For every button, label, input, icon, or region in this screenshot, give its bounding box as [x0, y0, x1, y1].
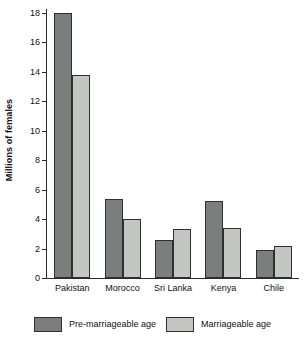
- legend-label: Marriageable age: [201, 319, 271, 329]
- y-axis-tick: [42, 101, 46, 102]
- y-axis-tick: [42, 219, 46, 220]
- legend-item-marriageable[interactable]: Marriageable age: [166, 313, 271, 335]
- x-axis-category-label: Morocco: [105, 283, 140, 293]
- y-axis-tick: [42, 249, 46, 250]
- bar: [105, 199, 123, 279]
- x-axis-line: [46, 278, 299, 279]
- bar: [54, 13, 72, 278]
- y-axis-tick: [42, 42, 46, 43]
- y-axis-tick-label: 8: [35, 156, 40, 165]
- y-axis-tick-label: 2: [35, 244, 40, 253]
- y-axis-tick-label: 4: [35, 215, 40, 224]
- y-axis-title-text: Millions of females: [4, 99, 14, 181]
- y-axis-tick-label: 10: [30, 126, 40, 135]
- legend-swatch-icon: [34, 317, 62, 332]
- bar-chart: Millions of females 024681012141618 Paki…: [0, 0, 305, 345]
- y-axis-tick-label: 6: [35, 185, 40, 194]
- bar: [72, 75, 90, 278]
- x-axis-category-label: Chile: [264, 283, 285, 293]
- y-axis-tick: [42, 72, 46, 73]
- y-axis-tick: [42, 190, 46, 191]
- x-axis-category-label: Pakistan: [55, 283, 90, 293]
- y-axis-tick-label: 12: [30, 97, 40, 106]
- y-axis-line: [46, 9, 47, 278]
- legend-label: Pre-marriageable age: [69, 319, 156, 329]
- y-axis-title: Millions of females: [0, 0, 18, 280]
- bar: [155, 240, 173, 278]
- legend-item-pre-marriageable[interactable]: Pre-marriageable age: [34, 313, 156, 335]
- y-axis-tick: [42, 13, 46, 14]
- x-axis-category-label: Sri Lanka: [154, 283, 192, 293]
- legend-swatch-icon: [166, 317, 194, 332]
- bar: [205, 201, 223, 278]
- y-axis-tick-label: 14: [30, 67, 40, 76]
- y-axis-tick-label: 0: [35, 274, 40, 283]
- y-axis-tick: [42, 278, 46, 279]
- bar: [274, 246, 292, 278]
- bar: [256, 250, 274, 278]
- y-axis-tick-label: 16: [30, 38, 40, 47]
- chart-legend: Pre-marriageable age Marriageable age: [0, 313, 305, 339]
- x-axis-category-label: Kenya: [211, 283, 237, 293]
- bar: [173, 229, 191, 278]
- plot-area: 024681012141618: [47, 13, 299, 278]
- bar: [123, 219, 141, 278]
- y-axis-tick: [42, 131, 46, 132]
- y-axis-tick: [42, 160, 46, 161]
- bar: [223, 228, 241, 278]
- y-axis-tick-label: 18: [30, 9, 40, 18]
